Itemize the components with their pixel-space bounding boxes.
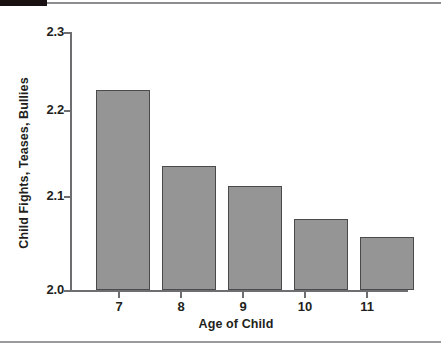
y-tick-group-0: 2.3: [0, 24, 64, 40]
x-axis-title: Age of Child: [71, 317, 401, 331]
x-tick-mark: [304, 292, 306, 298]
x-tick-mark: [118, 292, 120, 298]
y-tick-mark: [64, 32, 71, 34]
y-tick-mark: [64, 110, 71, 112]
y-tick-mark: [64, 196, 71, 198]
y-tick-group-1: 2.2: [0, 102, 64, 118]
x-tick-label-9: 9: [223, 299, 263, 314]
y-tick-mark: [64, 290, 71, 292]
y-tick-label: 2.3: [30, 24, 64, 39]
y-tick-label: 2.1: [30, 188, 64, 203]
y-tick-group-2: 2.1: [0, 188, 64, 204]
chart-page: 2.3 2.2 2.1 2.0 7 8 9 10 11 Age of Child…: [0, 0, 441, 348]
x-axis-line: [70, 290, 408, 292]
x-tick-mark: [180, 292, 182, 298]
bar-age-7[interactable]: [96, 90, 150, 290]
bar-age-8[interactable]: [162, 166, 216, 290]
bar-age-11[interactable]: [360, 237, 414, 290]
y-tick-label: 2.0: [30, 282, 64, 297]
bar-age-9[interactable]: [228, 186, 282, 290]
y-tick-group-3: 2.0: [0, 282, 64, 298]
y-tick-label: 2.2: [30, 102, 64, 117]
y-axis-title: Child Fights, Teases, Bullies: [17, 53, 31, 273]
x-tick-label-10: 10: [285, 299, 325, 314]
bottom-divider-rule: [0, 341, 441, 343]
x-tick-label-7: 7: [99, 299, 139, 314]
x-tick-mark: [366, 292, 368, 298]
x-tick-label-8: 8: [161, 299, 201, 314]
x-tick-mark: [242, 292, 244, 298]
x-tick-label-11: 11: [347, 299, 387, 314]
top-corner-tab: [0, 0, 47, 6]
plot-area: [71, 32, 401, 290]
bar-age-10[interactable]: [294, 219, 348, 290]
top-divider-rule: [0, 2, 441, 4]
